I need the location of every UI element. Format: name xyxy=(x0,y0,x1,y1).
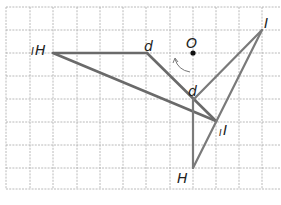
label-H-tick: I xyxy=(31,46,34,57)
label-I-right: I xyxy=(264,15,268,31)
label-H-bottom: H xyxy=(177,170,188,186)
grid xyxy=(6,7,281,189)
rotation-diagram: I H d O I d I I H xyxy=(0,0,281,205)
label-d-mid: d xyxy=(188,83,197,99)
center-point-O xyxy=(190,50,195,55)
rotated-shape xyxy=(193,30,262,168)
label-d: d xyxy=(144,38,153,54)
label-I-lower: I xyxy=(223,122,227,138)
label-H: H xyxy=(35,42,46,58)
label-O: O xyxy=(186,35,197,51)
label-I-lower-tick: I xyxy=(219,128,222,138)
rotation-arrow-icon xyxy=(173,58,190,72)
